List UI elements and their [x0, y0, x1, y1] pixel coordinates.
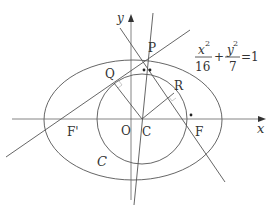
angle-dot-icon: [143, 69, 146, 72]
eq-x-exp: 2: [205, 39, 210, 48]
eq-plus: +: [214, 50, 224, 64]
eq-x-den: 16: [195, 60, 210, 74]
point-q-label: Q: [105, 67, 115, 81]
eq-y-den: 7: [229, 60, 237, 74]
ellipse: [44, 60, 222, 180]
y-axis-arrow-icon: [128, 14, 134, 22]
right-angle-r-icon: [169, 97, 176, 101]
right-angle-q-icon: [118, 81, 122, 88]
x-axis-label: x: [257, 121, 265, 136]
ellipse-equation: x 2 16 + y 2 7 =1: [195, 39, 259, 74]
y-axis-label: y: [116, 11, 124, 25]
radius-cq: [114, 83, 142, 119]
point-p-label: P: [148, 41, 156, 55]
tangent-line-r: [120, 28, 225, 182]
tangent-line-q: [6, 30, 190, 157]
center-c-label: C: [142, 125, 151, 139]
point-r-label: R: [174, 79, 184, 93]
angle-dot-icon: [149, 69, 152, 72]
eq-equals: =1: [241, 50, 259, 64]
focus-dot-icon: [190, 114, 193, 117]
focus-f-prime-label: F': [67, 125, 79, 139]
focus-f-label: F: [195, 125, 203, 139]
diagram-svg: y x P Q R O C F F' C x 2 16 + y 2 7 =1: [0, 0, 271, 215]
diagram: y x P Q R O C F F' C x 2 16 + y 2 7 =1: [0, 0, 271, 215]
origin-label: O: [121, 124, 131, 138]
circle-c-label: C: [97, 154, 107, 169]
eq-y-exp: 2: [233, 39, 238, 48]
eq-x: x: [198, 43, 205, 57]
